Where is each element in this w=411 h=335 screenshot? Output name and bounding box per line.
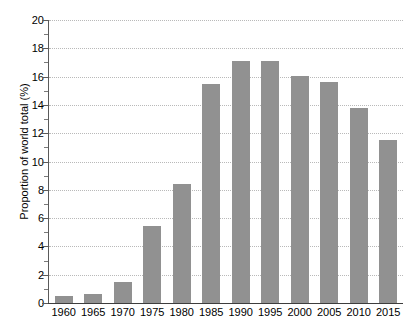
y-tick-label: 12	[18, 128, 44, 139]
x-tick-label: 1965	[79, 306, 109, 319]
bar	[202, 84, 220, 303]
y-tick-label: 0	[18, 298, 44, 309]
x-axis-tick-labels: 1960196519701975198019851990199520002005…	[49, 306, 403, 326]
y-tick-label: 14	[18, 99, 44, 110]
x-tick-label: 2000	[285, 306, 315, 319]
x-tick-label: 1975	[138, 306, 168, 319]
y-tick-label: 18	[18, 43, 44, 54]
plot-area	[49, 20, 403, 303]
bar-chart: Proportion of world total (%) 0246810121…	[0, 0, 411, 335]
y-tick-label: 4	[18, 241, 44, 252]
x-tick-label: 1970	[108, 306, 138, 319]
bar	[320, 82, 338, 303]
bar	[232, 61, 250, 303]
y-tick-label: 16	[18, 71, 44, 82]
x-tick-label: 1995	[256, 306, 286, 319]
x-tick-label: 1980	[167, 306, 197, 319]
x-tick-label: 1990	[226, 306, 256, 319]
x-tick-label: 2015	[374, 306, 404, 319]
bar	[55, 296, 73, 303]
bar	[291, 76, 309, 303]
y-axis-tick-labels: 02468101214161820	[18, 0, 44, 335]
x-axis-line	[48, 303, 403, 304]
y-tick-label: 6	[18, 213, 44, 224]
bar	[114, 282, 132, 303]
x-tick-label: 2010	[344, 306, 374, 319]
x-tick-label: 1985	[197, 306, 227, 319]
y-tick-label: 10	[18, 156, 44, 167]
y-tick-label: 2	[18, 269, 44, 280]
y-tick-label: 20	[18, 15, 44, 26]
y-tick-label: 8	[18, 184, 44, 195]
bar	[84, 294, 102, 303]
bar	[261, 61, 279, 303]
x-tick-label: 2005	[315, 306, 345, 319]
bar	[350, 108, 368, 303]
bar	[143, 226, 161, 303]
bar	[173, 184, 191, 303]
x-tick-label: 1960	[49, 306, 79, 319]
bar	[379, 140, 397, 303]
